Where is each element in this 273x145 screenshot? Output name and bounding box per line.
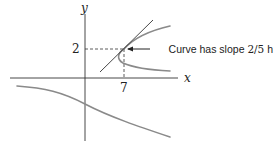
annotation-slope-value: 2/5 — [247, 43, 264, 55]
y-tick-label-2: 2 — [72, 42, 80, 56]
annotation-prefix: Curve has slope — [169, 43, 248, 55]
x-tick-label-7: 7 — [120, 81, 128, 95]
y-axis-label: y — [80, 1, 88, 15]
x-axis-label: x — [184, 71, 191, 85]
slope-annotation: Curve has slope 2/5 here — [154, 43, 273, 55]
curve-lower-branch — [17, 86, 170, 137]
implicit-curve-diagram: y x 2 7 Curve has slope 2/5 here — [0, 0, 273, 145]
annotation-suffix: here — [264, 43, 273, 55]
arrow-head-icon — [127, 47, 133, 52]
